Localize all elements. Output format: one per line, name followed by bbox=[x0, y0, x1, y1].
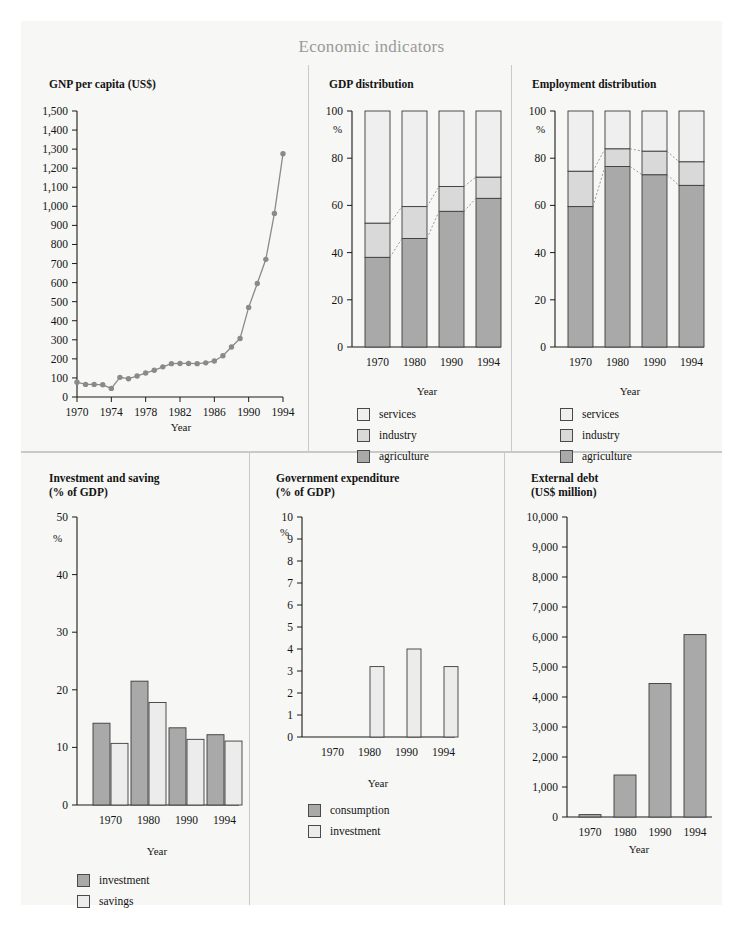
legend-item-industry: industry bbox=[357, 426, 429, 444]
gnp-data-point bbox=[246, 305, 251, 310]
bar-segment-services bbox=[568, 111, 593, 171]
legend-item-savings: savings bbox=[77, 892, 149, 910]
gnp-data-point bbox=[237, 336, 242, 341]
ytick-label: 50 bbox=[57, 511, 69, 523]
gnp-data-point bbox=[160, 364, 165, 369]
bar-segment-industry bbox=[568, 171, 593, 206]
page-title: Economic indicators bbox=[21, 37, 722, 57]
trend-connector-agriculture bbox=[630, 166, 642, 174]
debt-ytick-label: 5,000 bbox=[532, 661, 558, 674]
gnp-axes: 01002003004005006007008009001,0001,1001,… bbox=[42, 105, 295, 418]
xtick-label: 1970 bbox=[366, 356, 389, 368]
ytick-label: 20 bbox=[57, 684, 69, 696]
trend-connector-industry bbox=[667, 151, 679, 162]
debt-xtick-label: 1990 bbox=[649, 826, 672, 838]
trend-connector-agriculture bbox=[427, 211, 439, 238]
legend-swatch-investment bbox=[77, 874, 90, 887]
bar-segment-industry bbox=[402, 207, 427, 239]
debt-ytick-label: 8,000 bbox=[532, 571, 558, 584]
legend-label-services: services bbox=[582, 408, 619, 420]
gnp-ytick-label: 100 bbox=[51, 372, 69, 384]
gnp-ytick-label: 500 bbox=[51, 296, 69, 308]
plot-investment: 01020304050 1970198019901994 bbox=[21, 453, 249, 853]
bar-segment-services bbox=[476, 111, 501, 177]
bar-segment-agriculture bbox=[439, 211, 464, 347]
ytick-label: 80 bbox=[332, 152, 344, 164]
debt-ytick-label: 6,000 bbox=[532, 631, 558, 644]
legend-item-consumption: consumption bbox=[308, 801, 389, 819]
bar-external-debt bbox=[579, 815, 601, 817]
bar-segment-agriculture bbox=[605, 166, 630, 347]
ytick-label: 40 bbox=[332, 247, 344, 259]
bar-external-debt bbox=[614, 775, 636, 817]
xtick-label: 1980 bbox=[358, 746, 381, 758]
ytick-label: 100 bbox=[326, 105, 344, 117]
debt-xtick-label: 1980 bbox=[614, 826, 637, 838]
gnp-ytick-label: 1,200 bbox=[42, 162, 68, 175]
gnp-data-point bbox=[83, 382, 88, 387]
gnp-data-line bbox=[77, 154, 283, 389]
bar-investment bbox=[131, 681, 148, 805]
plot-gnp: 01002003004005006007008009001,0001,1001,… bbox=[21, 65, 308, 451]
ytick-label: 20 bbox=[332, 294, 344, 306]
bar-segment-services bbox=[365, 111, 390, 223]
bar-investment bbox=[444, 667, 458, 737]
gnp-ytick-label: 800 bbox=[51, 238, 69, 250]
legend-label-investment: investment bbox=[99, 874, 149, 886]
legend-swatch-industry bbox=[560, 429, 573, 442]
government-axes: 012345678910 bbox=[282, 511, 456, 743]
gdp-yaxis-unit: % bbox=[333, 123, 342, 135]
external-debt-xaxis-title: Year bbox=[579, 843, 699, 855]
bar-investment bbox=[169, 728, 186, 805]
gnp-data-point bbox=[280, 151, 285, 156]
bar-segment-agriculture bbox=[402, 238, 427, 347]
legend-swatch-savings bbox=[77, 895, 90, 908]
xtick-label: 1980 bbox=[137, 814, 160, 826]
gnp-data-point bbox=[152, 368, 157, 373]
gnp-data-point bbox=[263, 257, 268, 262]
gnp-ytick-label: 1,500 bbox=[42, 105, 68, 118]
trend-connector-agriculture bbox=[390, 238, 402, 257]
chart-page: Economic indicators GNP per capita (US$)… bbox=[0, 0, 743, 926]
ytick-label: 2 bbox=[287, 687, 293, 699]
gdp-svg: 020406080100 1970198019901994 bbox=[309, 65, 511, 365]
legend-swatch-services bbox=[357, 408, 370, 421]
legend-item-services: services bbox=[357, 405, 429, 423]
xtick-label: 1980 bbox=[403, 356, 426, 368]
bar-segment-agriculture bbox=[476, 198, 501, 347]
bar-segment-industry bbox=[679, 162, 704, 186]
figure-sheet: Economic indicators GNP per capita (US$)… bbox=[21, 21, 722, 905]
government-legend: consumptioninvestment bbox=[308, 801, 389, 843]
debt-ytick-label: 3,000 bbox=[532, 721, 558, 734]
panel-gdp-distribution: GDP distribution 020406080100 1970198019… bbox=[309, 65, 511, 451]
gnp-xtick-label: 1978 bbox=[134, 406, 157, 418]
trend-connector-agriculture bbox=[593, 166, 605, 206]
gnp-data-point bbox=[126, 376, 131, 381]
bar-segment-industry bbox=[605, 149, 630, 167]
bar-investment bbox=[370, 667, 384, 737]
ytick-label: 0 bbox=[540, 341, 546, 353]
plot-government: 012345678910 1970198019901994 bbox=[250, 453, 504, 793]
gnp-ytick-label: 200 bbox=[51, 353, 69, 365]
xtick-label: 1990 bbox=[175, 814, 198, 826]
investment-svg: 01020304050 1970198019901994 bbox=[21, 453, 249, 853]
panel-government-expenditure: Government expenditure (% of GDP) 012345… bbox=[250, 453, 504, 905]
ytick-label: 10 bbox=[282, 511, 294, 523]
trend-connector-agriculture bbox=[464, 198, 476, 211]
legend-label-savings: savings bbox=[99, 895, 134, 907]
bar-segment-agriculture bbox=[679, 185, 704, 347]
gnp-data-point bbox=[169, 361, 174, 366]
debt-ytick-label: 1,000 bbox=[532, 781, 558, 794]
trend-connector-industry bbox=[390, 207, 402, 224]
gdp-xaxis-title: Year bbox=[367, 385, 487, 397]
legend-item-industry: industry bbox=[560, 426, 632, 444]
bar-investment bbox=[93, 723, 110, 805]
ytick-label: 0 bbox=[337, 341, 343, 353]
ytick-label: 80 bbox=[535, 152, 547, 164]
xtick-label: 1980 bbox=[606, 356, 629, 368]
plot-gdp: 020406080100 1970198019901994 bbox=[309, 65, 511, 365]
debt-ytick-label: 4,000 bbox=[532, 691, 558, 704]
legend-swatch-investment bbox=[308, 825, 321, 838]
gnp-data-point bbox=[74, 379, 79, 384]
ytick-label: 4 bbox=[287, 643, 293, 655]
